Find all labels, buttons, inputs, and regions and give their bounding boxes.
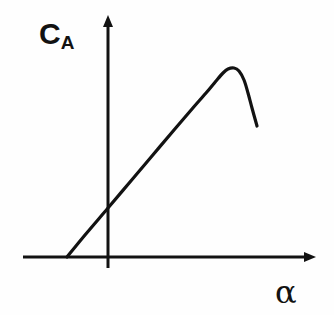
y-axis-label-subscript: A	[61, 32, 75, 53]
y-axis-label-symbol: C	[39, 17, 61, 50]
curve-lift-coefficient	[67, 68, 257, 257]
figure-canvas: CA α	[0, 0, 334, 315]
x-axis-label: α	[275, 276, 297, 308]
y-axis-label: CA	[39, 19, 74, 49]
